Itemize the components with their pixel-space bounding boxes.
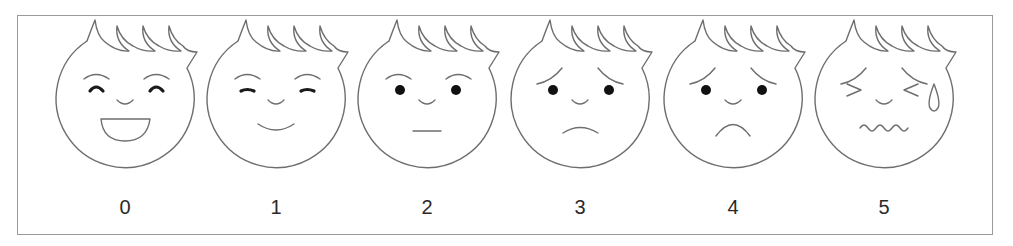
left-eye-icon	[701, 85, 711, 95]
score-label-2: 2	[407, 194, 447, 220]
right-eye-icon	[451, 85, 461, 95]
face-1	[207, 20, 348, 168]
face-0	[56, 20, 197, 168]
left-eye-icon	[548, 85, 558, 95]
score-label-4: 4	[713, 194, 753, 220]
left-eye-icon	[395, 85, 405, 95]
face-2	[358, 20, 499, 168]
score-label-5: 5	[864, 194, 904, 220]
score-label-1: 1	[256, 194, 296, 220]
right-eye-closed-icon	[301, 90, 314, 92]
face-5	[815, 20, 956, 168]
score-label-3: 3	[560, 194, 600, 220]
score-label-0: 0	[105, 194, 145, 220]
faces-canvas	[0, 0, 1013, 246]
left-eye-closed-icon	[241, 90, 254, 92]
right-eye-icon	[604, 85, 614, 95]
face-4	[664, 20, 805, 168]
face-3	[511, 20, 652, 168]
right-eye-icon	[757, 85, 767, 95]
